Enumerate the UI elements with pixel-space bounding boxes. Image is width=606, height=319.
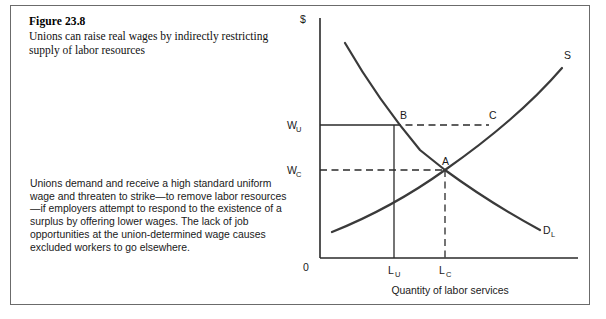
figure-number: Figure 23.8 <box>29 14 297 28</box>
figure-body-paragraph: Unions demand and receive a high standar… <box>30 178 288 254</box>
figure-caption-text: Unions can raise real wages by indirectl… <box>29 29 297 57</box>
figure-panel: Figure 23.8 Unions can raise real wages … <box>10 5 590 305</box>
figure-caption-block: Figure 23.8 Unions can raise real wages … <box>29 14 297 57</box>
